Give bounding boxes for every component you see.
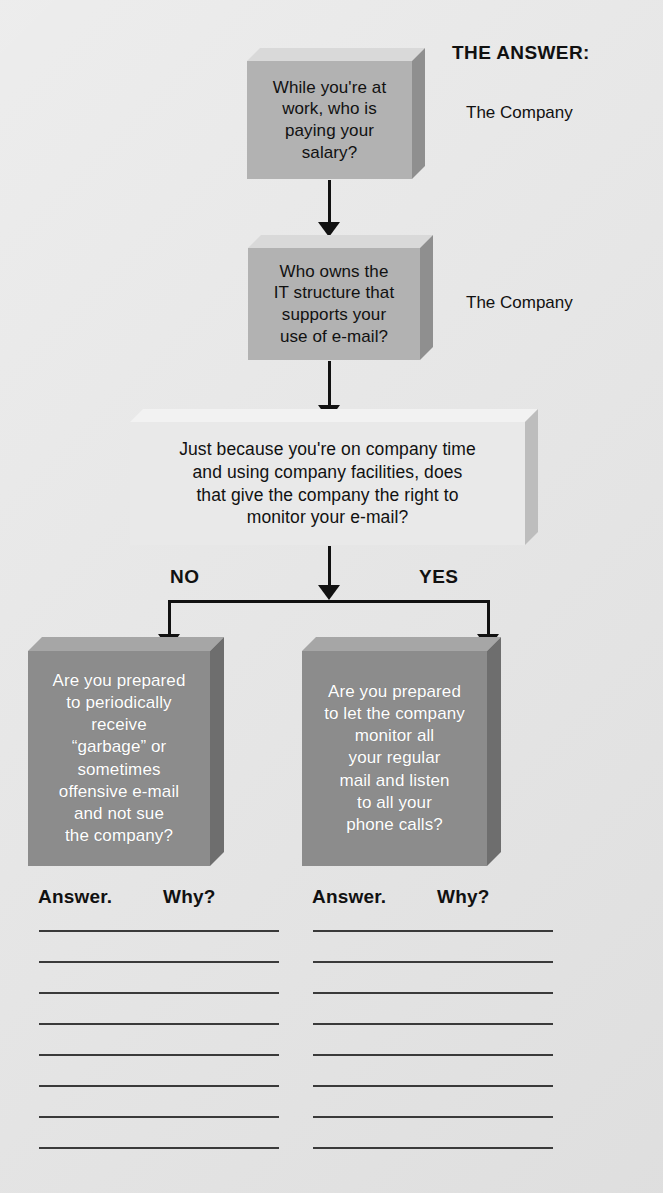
worksheet-rule-line[interactable] [39, 1054, 279, 1056]
worksheet-right-lines[interactable] [313, 930, 553, 1178]
flow-node-q2[interactable]: Who owns the IT structure that supports … [248, 248, 420, 360]
connector-q1-q2-arrowhead [318, 222, 340, 237]
connector-split-bar [168, 600, 490, 603]
flow-node-q1-face: While you're at work, who is paying your… [247, 61, 412, 179]
box-top-face [130, 409, 538, 422]
flow-node-q1-text: While you're at work, who is paying your… [265, 73, 394, 168]
flow-node-q4-yes-text: Are you prepared to let the company moni… [316, 677, 473, 840]
flow-node-q4-yes[interactable]: Are you prepared to let the company moni… [302, 651, 487, 866]
answer-value-2: The Company [466, 293, 573, 313]
worksheet-rule-line[interactable] [39, 1116, 279, 1118]
worksheet-left-lines[interactable] [39, 930, 279, 1178]
worksheet-rule-line[interactable] [39, 1023, 279, 1025]
flow-node-q4-no[interactable]: Are you prepared to periodically receive… [28, 651, 210, 866]
connector-q1-q2-line [328, 180, 331, 224]
worksheet-rule-line[interactable] [39, 992, 279, 994]
box-top-face [248, 235, 433, 248]
branch-label-no: NO [170, 566, 200, 588]
connector-yes-branch-line [487, 600, 490, 638]
connector-q3-split-line [328, 546, 331, 587]
flow-node-q4-no-face: Are you prepared to periodically receive… [28, 651, 210, 866]
box-side-face [487, 637, 501, 866]
answer-value-1: The Company [466, 103, 573, 123]
flow-node-q2-text: Who owns the IT structure that supports … [266, 257, 402, 352]
worksheet-left-why-label: Why? [163, 886, 216, 908]
box-top-face [302, 637, 501, 651]
box-top-face [247, 48, 425, 61]
flow-node-q3-text: Just because you're on company time and … [171, 434, 484, 533]
worksheet-rule-line[interactable] [313, 1116, 553, 1118]
connector-q3-split-arrowhead [318, 585, 340, 600]
flow-node-q4-yes-face: Are you prepared to let the company moni… [302, 651, 487, 866]
connector-no-branch-line [168, 600, 171, 638]
flow-node-q1[interactable]: While you're at work, who is paying your… [247, 61, 412, 179]
box-side-face [412, 48, 425, 179]
worksheet-right-answer-label: Answer. [312, 886, 386, 908]
box-side-face [525, 409, 538, 545]
worksheet-rule-line[interactable] [39, 961, 279, 963]
worksheet-rule-line[interactable] [313, 961, 553, 963]
worksheet-rule-line[interactable] [39, 1085, 279, 1087]
worksheet-rule-line[interactable] [313, 930, 553, 932]
flow-node-q3-face: Just because you're on company time and … [130, 422, 525, 545]
answer-column-heading: THE ANSWER: [452, 42, 590, 64]
worksheet-rule-line[interactable] [313, 1023, 553, 1025]
box-top-face [28, 637, 224, 651]
box-side-face [420, 235, 433, 360]
worksheet-rule-line[interactable] [313, 992, 553, 994]
worksheet-rule-line[interactable] [313, 1085, 553, 1087]
branch-label-yes: YES [419, 566, 459, 588]
worksheet-rule-line[interactable] [39, 1147, 279, 1149]
worksheet-left-answer-label: Answer. [38, 886, 112, 908]
worksheet-rule-line[interactable] [313, 1147, 553, 1149]
flow-node-q3[interactable]: Just because you're on company time and … [130, 422, 525, 545]
worksheet-rule-line[interactable] [39, 930, 279, 932]
flow-node-q2-face: Who owns the IT structure that supports … [248, 248, 420, 360]
flow-node-q4-no-text: Are you prepared to periodically receive… [45, 666, 194, 851]
worksheet-right-why-label: Why? [437, 886, 490, 908]
worksheet-rule-line[interactable] [313, 1054, 553, 1056]
flowchart-canvas: THE ANSWER: The Company The Company Whil… [0, 0, 663, 1193]
connector-q2-q3-line [328, 361, 331, 407]
box-side-face [210, 637, 224, 866]
